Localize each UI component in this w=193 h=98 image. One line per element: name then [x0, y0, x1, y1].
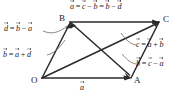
vertex-label-B: B	[59, 14, 65, 23]
equation-b-right: b = c − a	[136, 60, 164, 68]
math-operator: =	[98, 2, 106, 11]
arrowhead-at-B-from-A	[70, 22, 76, 29]
vector-symbol-d: d	[4, 25, 8, 33]
vector-symbol-b: b	[94, 3, 98, 11]
parallelogram-edges	[42, 22, 159, 78]
vector-symbol-c: c	[136, 41, 140, 49]
math-operator: =	[74, 2, 82, 11]
vector-symbol-b: b	[136, 60, 140, 68]
vector-symbol-b: b	[3, 51, 7, 59]
vector-symbol-a: a	[70, 3, 74, 11]
math-operator: +	[19, 50, 27, 59]
math-operator: =	[7, 50, 15, 59]
vector-symbol-c: c	[148, 60, 152, 68]
equation-a-top: a = c − b = b − d	[70, 3, 122, 11]
equation-c-right: c = a + b	[136, 41, 164, 49]
math-operator: =	[8, 24, 16, 33]
leader-line-d-label	[43, 26, 67, 33]
vector-symbol-a: a	[28, 25, 32, 33]
vector-symbol-a: a	[148, 41, 152, 49]
vector-symbol-d: d	[27, 51, 31, 59]
vector-symbol-a: a	[160, 60, 164, 68]
leader-line-b-right-label	[122, 54, 136, 64]
diagonal-O-to-C	[42, 24, 157, 79]
vector-diagram-figure: O A B C a = c − b = b − d d = b − a b = …	[0, 0, 193, 98]
diagonal-B-to-A	[70, 22, 130, 75]
math-operator: +	[152, 40, 160, 49]
math-operator: =	[140, 40, 148, 49]
equation-b-left: b = a + d	[3, 51, 31, 59]
math-operator: =	[140, 59, 148, 68]
vector-symbol-a: a	[15, 51, 19, 59]
edge-A-to-C	[131, 22, 159, 78]
math-operator: −	[110, 2, 118, 11]
vector-symbol-b: b	[160, 41, 164, 49]
vector-symbol-a: a	[80, 84, 84, 92]
vector-symbol-c: c	[82, 3, 86, 11]
math-operator: −	[20, 24, 28, 33]
vertex-label-O: O	[31, 76, 38, 85]
vector-symbol-b: b	[16, 25, 20, 33]
math-operator: −	[152, 59, 160, 68]
vertex-label-C: C	[163, 15, 169, 24]
math-operator: −	[86, 2, 94, 11]
vertex-label-A: A	[134, 76, 141, 85]
edge-label-a-bottom: a	[80, 84, 84, 92]
vector-symbol-b: b	[106, 3, 110, 11]
edge-O-to-B	[42, 27, 68, 79]
vector-symbol-d: d	[118, 3, 122, 11]
leader-lines	[43, 26, 136, 64]
equation-d-left: d = b − a	[4, 25, 32, 33]
leader-line-b-left-label	[47, 40, 65, 55]
